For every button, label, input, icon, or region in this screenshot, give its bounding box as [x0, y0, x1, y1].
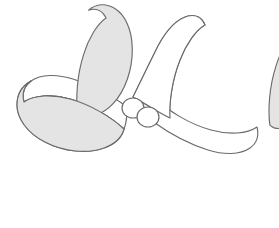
blade-bottom-surface: [262, 15, 279, 129]
propeller-illustration-canvas: Four-bladed propeller line drawing: [0, 0, 279, 228]
hub-ellipse-right: [137, 107, 159, 127]
propeller-drawing: [0, 0, 279, 228]
blade-bottom-face: [133, 15, 205, 118]
